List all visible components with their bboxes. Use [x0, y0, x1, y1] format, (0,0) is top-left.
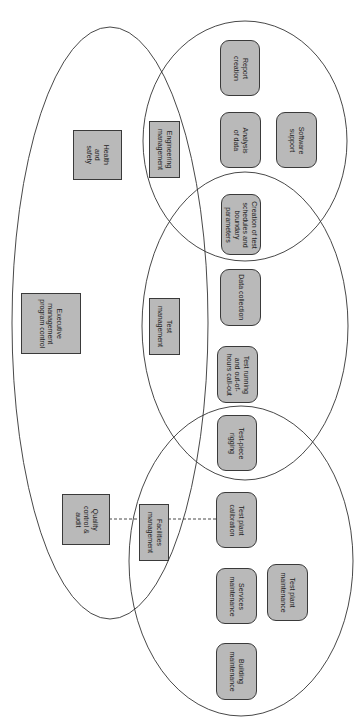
organization-diagram: Health and safety Executive management p…: [0, 0, 362, 723]
health-and-safety-node: Health and safety: [73, 130, 122, 180]
facilities-management-node: Facilities management: [139, 504, 169, 561]
analysis-of-data-node: Analysis of data: [220, 112, 261, 168]
diagram-lines: [0, 0, 362, 723]
executive-management-label: Executive management program control: [38, 299, 64, 348]
services-maintenance-label: Services maintenance: [228, 576, 245, 616]
data-collection-label: Data collection: [236, 275, 245, 321]
quality-control-label: Quality control & audit: [73, 506, 99, 534]
creation-of-test-schedules-label: Creation of test schedules and boundary …: [224, 201, 258, 248]
test-running-label: Test running and out-of- hours call-out: [225, 353, 251, 395]
test-management-node: Test management: [149, 298, 180, 355]
test-plant-calibration-node: Test plant calibration: [216, 492, 257, 548]
data-collection-node: Data collection: [220, 269, 261, 326]
building-maintenance-label: Building maintenance: [228, 651, 245, 691]
report-creation-node: Report creation: [220, 40, 260, 96]
engineering-management-node: Engineering management: [149, 121, 180, 178]
test-management-label: Test management: [156, 306, 173, 347]
quality-control-node: Quality control & audit: [62, 494, 110, 545]
building-maintenance-node: Building maintenance: [216, 643, 257, 700]
facilities-management-label: Facilities management: [146, 512, 163, 553]
test-piece-rigging-node: Test-piece rigging: [217, 415, 257, 471]
analysis-of-data-label: Analysis of data: [232, 127, 249, 153]
services-maintenance-node: Services maintenance: [216, 568, 257, 624]
software-support-node: Software support: [276, 112, 317, 168]
test-running-node: Test running and out-of- hours call-out: [217, 346, 258, 403]
health-and-safety-label: Health and safety: [85, 145, 111, 165]
report-creation-label: Report creation: [232, 56, 249, 81]
executive-management-node: Executive management program control: [21, 293, 81, 354]
creation-of-test-schedules-node: Creation of test schedules and boundary …: [221, 194, 261, 255]
test-plant-maintenance-node: Test plant maintenance: [267, 564, 308, 621]
test-plant-calibration-label: Test plant calibration: [228, 504, 245, 536]
engineering-management-label: Engineering management: [156, 129, 173, 170]
test-piece-rigging-label: Test-piece rigging: [229, 427, 246, 459]
test-plant-maintenance-label: Test plant maintenance: [279, 572, 296, 612]
software-support-label: Software support: [288, 126, 305, 154]
